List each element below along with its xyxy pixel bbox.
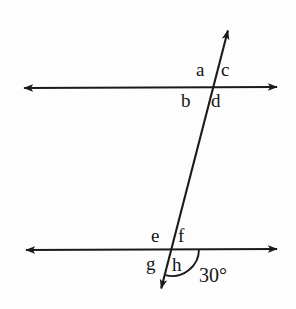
angle-label-a: a <box>196 60 204 79</box>
angle-label-b: b <box>181 91 191 110</box>
angle-label-f: f <box>178 226 184 245</box>
angle-label-e: e <box>151 226 159 245</box>
angle-label-c: c <box>221 60 229 79</box>
geometry-figure: a c b d e f g h 30° <box>0 0 296 309</box>
angle-label-d: d <box>211 91 221 110</box>
top-parallel-line <box>24 87 277 88</box>
angle-measure-label: 30° <box>199 266 227 285</box>
bottom-parallel-line <box>26 249 277 250</box>
angle-label-h: h <box>172 255 182 274</box>
angle-label-g: g <box>146 254 156 273</box>
